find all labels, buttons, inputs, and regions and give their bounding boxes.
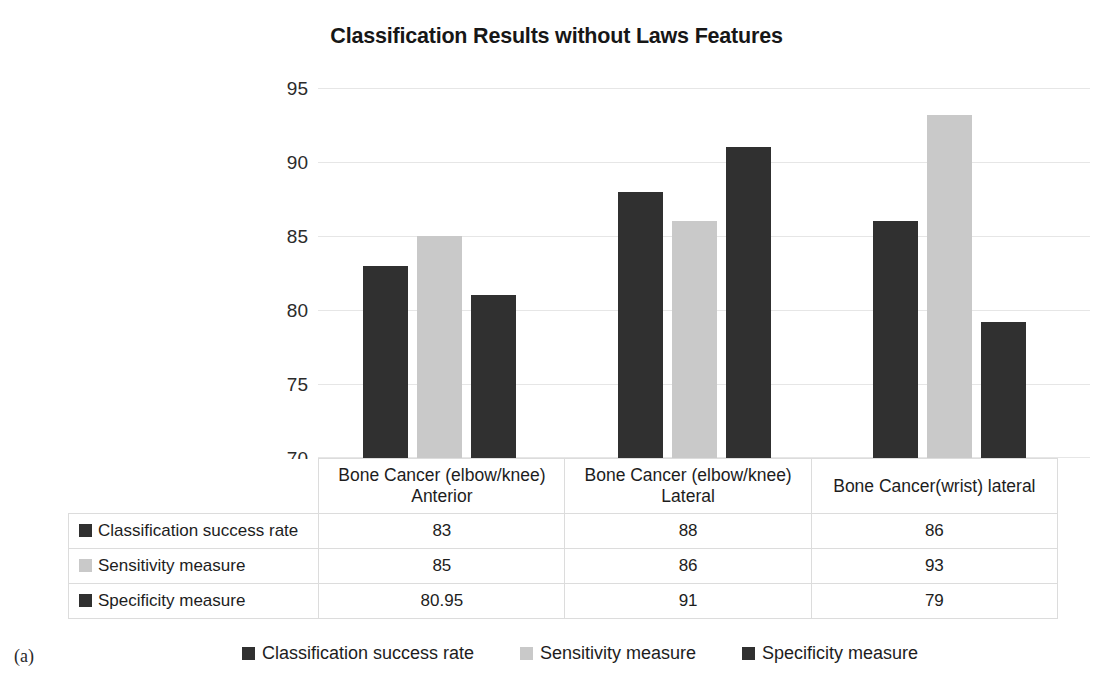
bar-specificity-measure[interactable] [471, 295, 516, 458]
table-value-cell: 83 [319, 514, 565, 549]
bar-classification-success-rate[interactable] [618, 192, 663, 458]
legend-label: Classification success rate [262, 643, 474, 664]
y-tick-label: 90 [258, 153, 308, 172]
table-header-row: Bone Cancer (elbow/knee) Anterior Bone C… [69, 459, 1058, 514]
table-header-cell: Bone Cancer(wrist) lateral [811, 459, 1057, 514]
y-tick-label: 95 [258, 79, 308, 98]
table-header-line1: Bone Cancer(wrist) lateral [833, 476, 1035, 496]
legend-swatch-icon [520, 647, 533, 660]
table-header-line1: Bone Cancer (elbow/knee) [338, 465, 545, 485]
bar-classification-success-rate[interactable] [363, 266, 408, 458]
table-series-label-cell: Sensitivity measure [69, 549, 319, 584]
table-header-line2: Anterior [411, 486, 472, 506]
y-tick-label: 85 [258, 227, 308, 246]
legend-item-sensitivity-measure[interactable]: Sensitivity measure [520, 643, 696, 664]
chart-legend: Classification success rate Sensitivity … [170, 643, 990, 664]
bar-group [828, 88, 1083, 458]
bar-sensitivity-measure[interactable] [927, 115, 972, 458]
table-value-cell: 86 [565, 549, 811, 584]
table-series-label-cell: Classification success rate [69, 514, 319, 549]
series-swatch-icon [79, 594, 92, 607]
y-axis: 95 90 85 80 75 70 [258, 88, 308, 458]
legend-label: Specificity measure [762, 643, 918, 664]
figure-caption-label: (a) [14, 646, 34, 667]
plot-area [318, 88, 1090, 458]
legend-label: Sensitivity measure [540, 643, 696, 664]
table-series-label-cell: Specificity measure [69, 584, 319, 619]
table-header-line1: Bone Cancer (elbow/knee) [585, 465, 792, 485]
legend-item-specificity-measure[interactable]: Specificity measure [742, 643, 918, 664]
table-value-cell: 93 [811, 549, 1057, 584]
table-value-cell: 86 [811, 514, 1057, 549]
table-value-cell: 79 [811, 584, 1057, 619]
series-label: Specificity measure [98, 591, 245, 610]
table-corner-cell [69, 459, 319, 514]
data-table: Bone Cancer (elbow/knee) Anterior Bone C… [68, 458, 1058, 619]
table-value-cell: 80.95 [319, 584, 565, 619]
table-row: Classification success rate 83 88 86 [69, 514, 1058, 549]
table-value-cell: 85 [319, 549, 565, 584]
bar-sensitivity-measure[interactable] [417, 236, 462, 458]
legend-item-classification-success-rate[interactable]: Classification success rate [242, 643, 474, 664]
series-label: Sensitivity measure [98, 556, 245, 575]
bar-group [318, 88, 573, 458]
bar-sensitivity-measure[interactable] [672, 221, 717, 458]
series-label: Classification success rate [98, 521, 298, 540]
chart-title: Classification Results without Laws Feat… [0, 24, 1113, 49]
y-tick-label: 80 [258, 301, 308, 320]
table-header-line2: Lateral [661, 486, 715, 506]
table-header-cell: Bone Cancer (elbow/knee) Anterior [319, 459, 565, 514]
table-row: Sensitivity measure 85 86 93 [69, 549, 1058, 584]
table-value-cell: 91 [565, 584, 811, 619]
y-tick-label: 75 [258, 375, 308, 394]
bar-specificity-measure[interactable] [981, 322, 1026, 458]
bar-specificity-measure[interactable] [726, 147, 771, 458]
bar-group [573, 88, 828, 458]
table-row: Specificity measure 80.95 91 79 [69, 584, 1058, 619]
table-value-cell: 88 [565, 514, 811, 549]
table-header-cell: Bone Cancer (elbow/knee) Lateral [565, 459, 811, 514]
legend-swatch-icon [742, 647, 755, 660]
series-swatch-icon [79, 524, 92, 537]
series-swatch-icon [79, 559, 92, 572]
bar-classification-success-rate[interactable] [873, 221, 918, 458]
legend-swatch-icon [242, 647, 255, 660]
